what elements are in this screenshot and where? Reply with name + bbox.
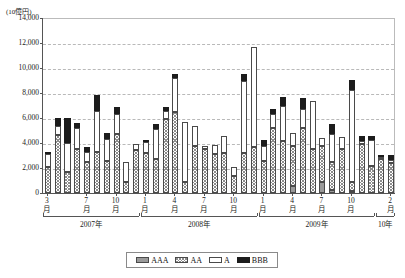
y-axis-tick: 6,000 — [0, 113, 39, 122]
bar-segment-aa — [349, 182, 355, 191]
x-axis-tick-label: 2月 — [382, 196, 398, 214]
bar-segment-a — [114, 114, 120, 134]
bar-segment-a — [319, 138, 325, 146]
bar-column — [378, 155, 384, 193]
year-group-end-tick — [394, 213, 395, 216]
y-axis-tick-label: 8,000 — [0, 88, 39, 97]
x-axis-month-number: 7 — [78, 196, 94, 205]
bar-segment-aa — [300, 128, 306, 193]
y-axis-tick: 2,000 — [0, 163, 39, 172]
year-group-end-tick — [376, 213, 377, 216]
x-axis-tick-mark — [86, 193, 87, 196]
y-axis-tick-mark — [40, 118, 43, 119]
bar-segment-bbb — [55, 118, 61, 126]
x-axis-tick-label: 7月 — [313, 196, 329, 214]
bar-column — [388, 155, 394, 193]
x-axis-tick-mark — [174, 193, 175, 196]
bar-segment-a — [329, 134, 335, 163]
bar-segment-aa — [378, 159, 384, 193]
legend-swatch-icon — [136, 257, 149, 263]
bar-column — [368, 136, 374, 193]
x-axis-month-suffix: 月 — [225, 205, 241, 214]
bar-segment-a — [270, 114, 276, 128]
x-axis-tick-mark — [47, 193, 48, 196]
bar-segment-a — [300, 109, 306, 128]
year-group-end-tick — [259, 213, 260, 216]
legend-item-a[interactable]: A — [209, 256, 230, 265]
bar-segment-a — [280, 106, 286, 142]
bar-column — [349, 80, 355, 193]
x-axis-month-number: 10 — [225, 196, 241, 205]
year-group-end-tick — [257, 213, 258, 216]
bar-segment-a — [241, 81, 247, 153]
bar-segment-aa — [45, 167, 51, 193]
bar-segment-a — [368, 140, 374, 166]
legend-item-bbb[interactable]: BBB — [237, 256, 268, 265]
year-group-rule — [141, 216, 257, 217]
bar-column — [172, 74, 178, 193]
bar-column — [280, 97, 286, 193]
bar-segment-aa — [163, 119, 169, 193]
bar-segment-aa — [202, 149, 208, 193]
year-group-rule — [259, 216, 375, 217]
bar-segment-aa — [251, 147, 257, 193]
bar-segment-a — [74, 128, 80, 149]
x-axis-tick-mark — [145, 193, 146, 196]
y-axis-tick: 4,000 — [0, 138, 39, 147]
plot-area — [42, 18, 395, 193]
bar-column — [270, 109, 276, 193]
bar-series-container — [43, 19, 394, 193]
x-axis-tick-mark — [390, 193, 391, 196]
bar-segment-bbb — [300, 98, 306, 109]
bar-column — [182, 122, 188, 193]
bar-segment-a — [172, 78, 178, 112]
x-axis-tick-label: 4月 — [284, 196, 300, 214]
legend-item-aa[interactable]: AA — [175, 256, 202, 265]
x-axis-month-number: 1 — [255, 196, 271, 205]
bar-segment-bbb — [64, 118, 70, 143]
bar-column — [143, 140, 149, 193]
x-axis-tick-label: 10月 — [225, 196, 241, 214]
bar-segment-aa — [231, 176, 237, 193]
bar-segment-a — [349, 90, 355, 182]
x-axis-tick-mark — [351, 193, 352, 196]
y-axis-tick: 14,000 — [0, 13, 39, 22]
bar-segment-aa — [143, 153, 149, 193]
x-axis-month-number: 7 — [313, 196, 329, 205]
bar-segment-aa — [359, 144, 365, 193]
bar-segment-a — [94, 111, 100, 152]
x-axis-tick-label: 7月 — [78, 196, 94, 214]
y-axis-tick-mark — [40, 143, 43, 144]
bar-segment-aa — [368, 166, 374, 193]
bar-column — [329, 124, 335, 193]
legend-label: AAA — [151, 256, 168, 265]
bar-segment-a — [251, 47, 257, 146]
bar-column — [74, 123, 80, 193]
bar-segment-aa — [339, 149, 345, 193]
x-axis-month-suffix: 月 — [284, 205, 300, 214]
legend-item-aaa[interactable]: AAA — [136, 256, 168, 265]
bar-segment-a — [84, 152, 90, 162]
bar-segment-aa — [133, 150, 139, 193]
year-group-end-tick — [374, 213, 375, 216]
y-axis-tick-mark — [40, 18, 43, 19]
y-axis-tick: 10,000 — [0, 63, 39, 72]
bar-segment-aa — [94, 152, 100, 193]
x-axis-tick-label: 4月 — [166, 196, 182, 214]
bar-segment-a — [290, 133, 296, 146]
x-axis-month-number: 1 — [137, 196, 153, 205]
x-axis-tick-label: 1月 — [255, 196, 271, 214]
bar-column — [310, 101, 316, 193]
bar-segment-a — [310, 101, 316, 149]
legend-swatch-icon — [175, 257, 188, 263]
x-axis-tick-label: 10月 — [343, 196, 359, 214]
bar-segment-aa — [319, 146, 325, 182]
x-axis-month-suffix: 月 — [108, 205, 124, 214]
bar-segment-aaa — [290, 186, 296, 194]
bar-segment-aa — [388, 163, 394, 193]
x-axis-tick-label: 1月 — [137, 196, 153, 214]
bar-segment-a — [231, 167, 237, 176]
bar-column — [251, 47, 257, 193]
x-axis-tick-label: 10月 — [108, 196, 124, 214]
chart-legend: AAAAAABBB — [126, 252, 278, 268]
